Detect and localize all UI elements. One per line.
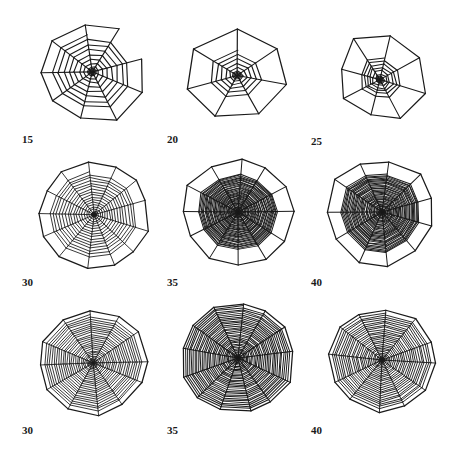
web-label: 35 (167, 425, 178, 436)
web-label: 40 (311, 425, 322, 436)
web-figure-35-r2c1 (166, 286, 310, 430)
spider-web-drawing (166, 286, 310, 430)
web-figure-20-r0c1 (169, 4, 305, 140)
web-label: 30 (22, 277, 33, 288)
web-figure-25-r0c2 (314, 6, 446, 138)
spider-web-drawing (23, 290, 163, 430)
spider-web-drawing (166, 140, 310, 284)
spider-web-drawing (313, 291, 451, 429)
spider-web-drawing (169, 4, 305, 140)
spider-web-drawing (20, 141, 164, 285)
spider-web-drawing (310, 140, 454, 284)
web-label: 20 (167, 134, 178, 145)
web-label: 15 (22, 134, 33, 145)
web-label: 30 (22, 425, 33, 436)
web-label: 35 (167, 277, 178, 288)
web-figure-15-r0c0 (20, 0, 164, 142)
web-label: 25 (311, 136, 322, 147)
web-figure-35-r1c1 (166, 140, 310, 284)
web-label: 40 (311, 277, 322, 288)
figure-sheet: 152025303540303540 (0, 0, 467, 452)
web-figure-30-r1c0 (20, 141, 164, 285)
spider-web-drawing (314, 6, 446, 138)
web-figure-40-r1c2 (310, 140, 454, 284)
web-figure-30-r2c0 (23, 290, 163, 430)
spider-web-drawing (20, 0, 164, 142)
figure-caption (26, 443, 456, 452)
web-figure-40-r2c2 (313, 291, 451, 429)
